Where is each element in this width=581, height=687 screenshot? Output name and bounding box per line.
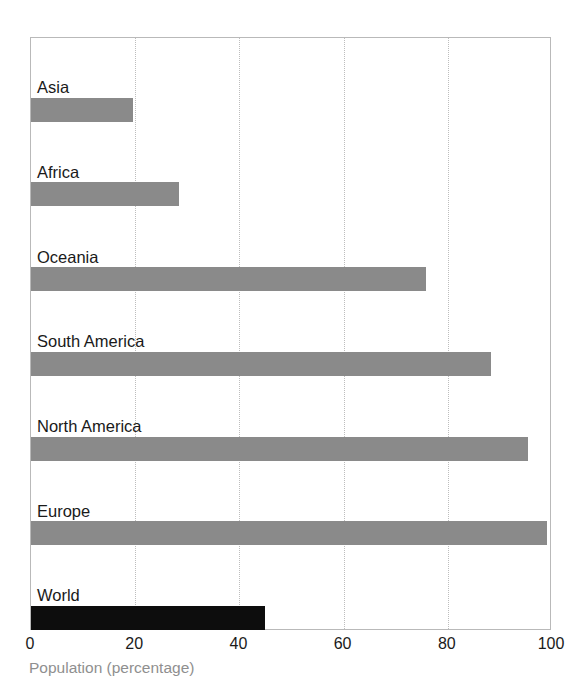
- bar-category-label: Africa: [37, 164, 79, 181]
- x-tick-label-20: 20: [125, 634, 143, 653]
- x-axis-title: Population (percentage): [29, 659, 194, 678]
- bar: [31, 98, 133, 122]
- bar: [31, 352, 491, 376]
- bar: [31, 521, 547, 545]
- bar-row: Europe: [31, 462, 550, 547]
- bar-category-label: World: [37, 587, 80, 604]
- bar: [31, 606, 265, 630]
- bar-category-label: South America: [37, 333, 144, 350]
- bar-category-label: Oceania: [37, 249, 98, 266]
- bar-row: North America: [31, 377, 550, 462]
- x-tick-label-60: 60: [334, 634, 352, 653]
- bar: [31, 182, 179, 206]
- bar: [31, 267, 426, 291]
- plot-area: AsiaAfricaOceaniaSouth AmericaNorth Amer…: [30, 37, 551, 630]
- bar-category-label: North America: [37, 418, 142, 435]
- bar-row: World: [31, 546, 550, 631]
- bar: [31, 437, 528, 461]
- x-tick-label-0: 0: [26, 634, 35, 653]
- x-tick-label-40: 40: [229, 634, 247, 653]
- bars-layer: AsiaAfricaOceaniaSouth AmericaNorth Amer…: [31, 38, 550, 629]
- bar-row: Asia: [31, 38, 550, 123]
- x-axis-tick-labels: 020406080100: [0, 634, 581, 656]
- bar-chart-figure: AsiaAfricaOceaniaSouth AmericaNorth Amer…: [0, 0, 581, 687]
- bar-row: Africa: [31, 123, 550, 208]
- x-tick-label-100: 100: [538, 634, 565, 653]
- bar-category-label: Asia: [37, 79, 69, 96]
- chart-title: [0, 0, 581, 7]
- bar-row: South America: [31, 292, 550, 377]
- bar-category-label: Europe: [37, 503, 90, 520]
- x-tick-label-80: 80: [438, 634, 456, 653]
- bar-row: Oceania: [31, 207, 550, 292]
